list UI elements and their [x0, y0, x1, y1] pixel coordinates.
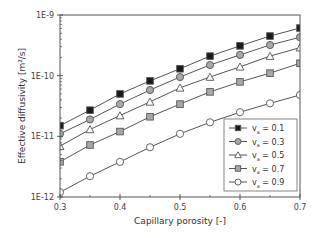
marker-triangle	[146, 98, 154, 105]
chart: 1E-121E-111E-101E-90.30.40.50.60.7 Capil…	[0, 0, 321, 238]
marker-square	[267, 70, 274, 77]
marker-circle	[235, 139, 241, 145]
marker-square	[235, 166, 240, 171]
y-tick-label: 1E-10	[31, 72, 54, 81]
y-tick-label: 1E-11	[31, 132, 54, 141]
marker-circle	[116, 100, 123, 107]
y-axis-title: Effective diffusivity [m²/s]	[17, 48, 27, 164]
marker-circle	[176, 73, 183, 80]
marker-square	[177, 101, 184, 108]
marker-circle	[146, 144, 153, 151]
marker-circle	[266, 41, 273, 48]
x-tick-label: 0.3	[54, 203, 67, 212]
x-tick-label: 0.6	[234, 203, 247, 212]
y-tick-label: 1E-9	[36, 11, 54, 20]
marker-square	[147, 113, 154, 120]
marker-circle	[235, 179, 241, 185]
marker-square	[267, 33, 274, 40]
marker-circle	[206, 61, 213, 68]
marker-circle	[176, 130, 183, 137]
marker-circle	[236, 109, 243, 116]
marker-square	[237, 79, 244, 86]
marker-triangle	[236, 63, 244, 70]
marker-triangle	[116, 112, 124, 119]
marker-square	[235, 125, 240, 130]
marker-square	[117, 91, 124, 98]
x-tick-label: 0.4	[114, 203, 127, 212]
marker-circle	[146, 86, 153, 93]
y-tick-label: 1E-12	[31, 193, 54, 202]
marker-square	[207, 89, 214, 96]
marker-square	[87, 142, 94, 149]
marker-circle	[206, 119, 213, 126]
marker-triangle	[266, 52, 274, 59]
x-tick-label: 0.5	[174, 203, 187, 212]
marker-triangle	[206, 73, 214, 80]
marker-circle	[116, 158, 123, 165]
marker-circle	[236, 51, 243, 58]
marker-circle	[86, 116, 93, 123]
marker-square	[177, 65, 184, 72]
marker-triangle	[86, 126, 94, 133]
marker-square	[147, 78, 154, 85]
marker-circle	[86, 173, 93, 180]
marker-square	[117, 128, 124, 135]
marker-triangle	[176, 84, 184, 91]
marker-circle	[266, 100, 273, 107]
legend: va = 0.1va = 0.3va = 0.5va = 0.7va = 0.9	[224, 119, 297, 191]
x-axis-title: Capillary porosity [-]	[134, 216, 226, 226]
marker-square	[87, 107, 94, 114]
x-tick-label: 0.7	[294, 203, 307, 212]
marker-square	[207, 53, 214, 60]
marker-square	[237, 43, 244, 50]
